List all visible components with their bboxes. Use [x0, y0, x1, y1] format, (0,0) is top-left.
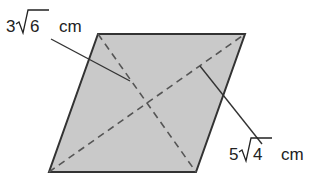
short-diagonal-radicand: 6: [30, 17, 39, 36]
short-diagonal-coefficient: 3: [6, 17, 15, 36]
long-diagonal-label: 5 4 cm: [229, 138, 304, 164]
rhombus-diagram: 3 6 cm 5 4 cm: [0, 0, 319, 181]
long-diagonal-radicand: 4: [253, 145, 262, 164]
short-diagonal-label: 3 6 cm: [6, 10, 82, 36]
short-diagonal-unit: cm: [59, 17, 82, 36]
long-diagonal-coefficient: 5: [229, 145, 238, 164]
long-diagonal-unit: cm: [281, 145, 304, 164]
